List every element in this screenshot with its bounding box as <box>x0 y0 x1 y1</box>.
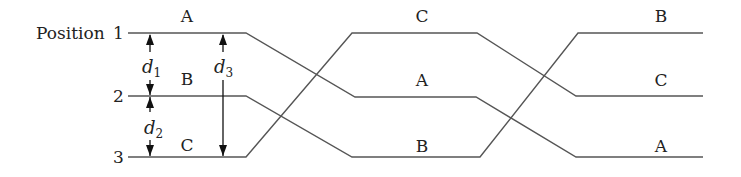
dimension-d3-arrow <box>219 34 227 156</box>
stage-3-middle-label: C <box>654 70 667 90</box>
stage-1-top-label: A <box>180 6 194 26</box>
stage-2-middle-label: A <box>415 70 429 90</box>
position-rotation-diagram: Position 1 2 3 A B C C A B B C A d1 d2 <box>0 0 741 177</box>
stage-1-bottom-label: C <box>180 135 193 155</box>
stage-3-top-label: B <box>655 6 668 26</box>
stage-1-middle-label: B <box>181 69 194 89</box>
dimension-d1-label: d1 <box>142 56 161 80</box>
dimension-d3-label: d3 <box>214 56 233 80</box>
position-2-label: 2 <box>113 86 124 106</box>
position-1-label: 1 <box>113 23 124 43</box>
stage-2-top-label: C <box>415 6 428 26</box>
stage-2-bottom-label: B <box>416 136 429 156</box>
position-3-label: 3 <box>113 147 124 167</box>
stage-3-bottom-label: A <box>654 136 668 156</box>
position-axis-label: Position <box>36 23 105 43</box>
dimension-d2-label: d2 <box>144 117 163 141</box>
